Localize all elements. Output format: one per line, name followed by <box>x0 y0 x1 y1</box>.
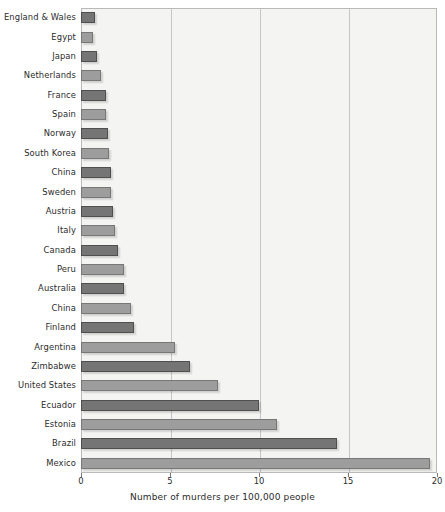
bar-row <box>81 396 437 415</box>
category-label: South Korea <box>0 148 76 158</box>
bar-row <box>81 8 437 27</box>
bar <box>81 380 218 391</box>
bar <box>81 90 106 101</box>
bar-row <box>81 279 437 298</box>
bar <box>81 245 118 256</box>
category-label: Japan <box>0 51 76 61</box>
bar-row <box>81 202 437 221</box>
bar <box>81 167 111 178</box>
bar <box>81 322 134 333</box>
bar <box>81 109 106 120</box>
x-tick-label: 20 <box>432 476 443 486</box>
bar-row <box>81 86 437 105</box>
category-label: Netherlands <box>0 70 76 80</box>
bar <box>81 51 97 62</box>
bar <box>81 148 109 159</box>
bar-row <box>81 434 437 453</box>
bar <box>81 187 111 198</box>
bar <box>81 361 190 372</box>
category-label: Mexico <box>0 458 76 468</box>
category-label: Ecuador <box>0 400 76 410</box>
bar-row <box>81 299 437 318</box>
bar <box>81 12 95 23</box>
category-label: Italy <box>0 225 76 235</box>
x-axis-ticks: 05101520 <box>81 473 437 489</box>
bar-row <box>81 66 437 85</box>
category-label: Sweden <box>0 187 76 197</box>
category-label: Brazil <box>0 438 76 448</box>
bar-row <box>81 357 437 376</box>
bar-row <box>81 47 437 66</box>
bar <box>81 206 113 217</box>
category-label: China <box>0 167 76 177</box>
bar <box>81 32 93 43</box>
bar <box>81 128 108 139</box>
category-label: Finland <box>0 322 76 332</box>
category-label: Zimbabwe <box>0 361 76 371</box>
bar <box>81 438 337 449</box>
category-label: Argentina <box>0 342 76 352</box>
category-label: England & Wales <box>0 12 76 22</box>
murder-rate-bar-chart: England & WalesEgyptJapanNetherlandsFran… <box>0 0 445 512</box>
bar-row <box>81 163 437 182</box>
category-label: Egypt <box>0 32 76 42</box>
x-tick-label: 15 <box>343 476 354 486</box>
bar <box>81 400 259 411</box>
bar-row <box>81 415 437 434</box>
bar-row <box>81 337 437 356</box>
category-label: United States <box>0 380 76 390</box>
bar-row <box>81 454 437 473</box>
bar-row <box>81 260 437 279</box>
bar-row <box>81 376 437 395</box>
category-label: Spain <box>0 109 76 119</box>
x-tick-label: 0 <box>78 476 83 486</box>
bars-layer <box>81 8 437 473</box>
category-label: France <box>0 90 76 100</box>
bar-row <box>81 241 437 260</box>
category-label: Canada <box>0 245 76 255</box>
x-tick-label: 10 <box>254 476 265 486</box>
bar-row <box>81 144 437 163</box>
x-tick-label: 5 <box>167 476 172 486</box>
bar-row <box>81 27 437 46</box>
bar <box>81 283 124 294</box>
x-axis-label: Number of murders per 100,000 people <box>0 492 445 502</box>
category-label: Norway <box>0 128 76 138</box>
category-axis-labels: England & WalesEgyptJapanNetherlandsFran… <box>0 8 76 473</box>
bar <box>81 264 124 275</box>
bar <box>81 458 430 469</box>
bar <box>81 70 101 81</box>
bar <box>81 303 131 314</box>
bar-row <box>81 182 437 201</box>
bar-row <box>81 318 437 337</box>
bar <box>81 419 277 430</box>
category-label: Peru <box>0 264 76 274</box>
category-label: Estonia <box>0 419 76 429</box>
bar <box>81 225 115 236</box>
category-label: China <box>0 303 76 313</box>
bar <box>81 342 175 353</box>
bar-row <box>81 221 437 240</box>
bar-row <box>81 124 437 143</box>
category-label: Australia <box>0 283 76 293</box>
bar-row <box>81 105 437 124</box>
category-label: Austria <box>0 206 76 216</box>
